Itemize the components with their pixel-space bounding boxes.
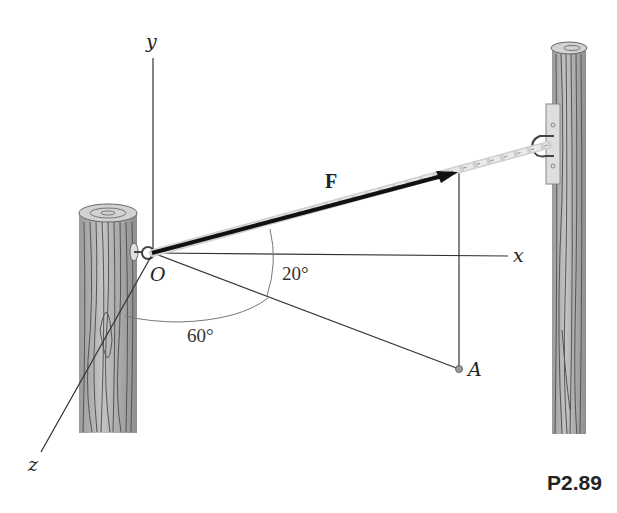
y-axis-label: y <box>145 30 157 52</box>
arc-20-deg <box>267 229 273 296</box>
arc-60-deg <box>125 298 268 322</box>
angle-60-label: 60° <box>187 325 214 346</box>
force-vector-arrow <box>152 171 458 253</box>
force-label: F <box>325 170 337 192</box>
origin-label: O <box>150 263 166 285</box>
angle-20-label: 20° <box>282 263 309 284</box>
x-axis <box>153 253 508 256</box>
x-axis-label: x <box>513 244 524 266</box>
point-A-label: A <box>466 358 482 380</box>
right-wooden-post <box>532 42 587 434</box>
mechanics-diagram: y x z O F A 20° 60° <box>0 0 617 513</box>
z-axis-label: z <box>27 453 39 475</box>
point-A-marker <box>456 366 463 373</box>
problem-number: P2.89 <box>547 471 602 495</box>
